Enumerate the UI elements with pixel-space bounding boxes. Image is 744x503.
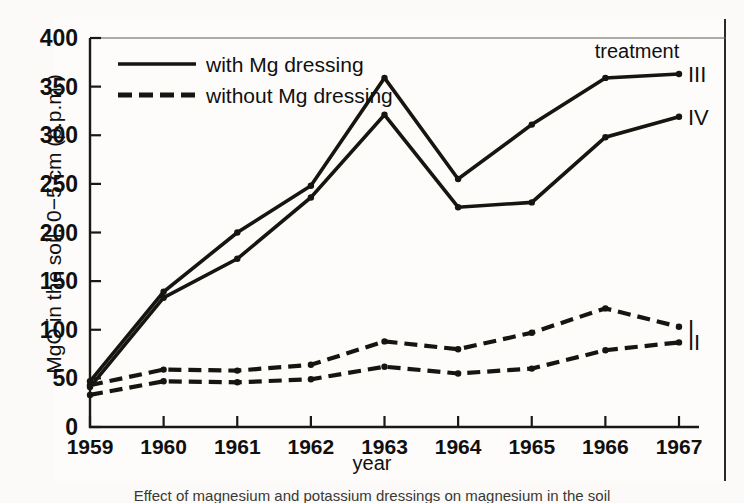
data-point [529, 330, 535, 336]
x-tick-label: 1960 [140, 435, 187, 458]
series-line-III [90, 74, 679, 381]
data-point [308, 183, 314, 189]
data-point [455, 346, 461, 352]
series-label-II: II [688, 330, 700, 355]
data-point [676, 114, 682, 120]
y-tick-label: 350 [40, 74, 78, 100]
y-tick-label: 100 [40, 317, 78, 343]
legend-label: with Mg dressing [205, 53, 364, 76]
data-point [529, 121, 535, 127]
data-point [234, 229, 240, 235]
x-tick-label: 1963 [361, 435, 408, 458]
data-point [455, 176, 461, 182]
figure-container: MgO in the soil, 0−5 cm (p.p.m.) year Ef… [0, 0, 744, 503]
y-tick-label: 400 [40, 25, 78, 51]
data-point [529, 365, 535, 371]
data-point [381, 75, 387, 81]
series-line-IV [90, 115, 679, 387]
line-chart-svg: 0501001502002503003504001959196019611962… [0, 0, 744, 503]
series-label-layer: IIIIVIIItreatment [595, 40, 709, 355]
series-label-III: III [688, 62, 706, 87]
data-point [602, 75, 608, 81]
x-tick-label: 1961 [214, 435, 261, 458]
data-point [234, 367, 240, 373]
x-tick-label: 1959 [67, 435, 114, 458]
data-point [308, 362, 314, 368]
data-point [381, 338, 387, 344]
data-point [381, 364, 387, 370]
series-label-IV: IV [688, 105, 709, 130]
series-layer [87, 71, 682, 398]
data-point [381, 112, 387, 118]
x-tick-label: 1965 [508, 435, 555, 458]
y-tick-label: 150 [40, 268, 78, 294]
data-point [308, 194, 314, 200]
data-point [529, 199, 535, 205]
legend-layer: with Mg dressingwithout Mg dressing [118, 53, 393, 107]
y-tick-label: 200 [40, 220, 78, 246]
data-point [602, 134, 608, 140]
treatment-annotation: treatment [595, 40, 680, 62]
data-point [160, 289, 166, 295]
x-tick-label: 1964 [435, 435, 482, 458]
data-point [602, 347, 608, 353]
data-point [160, 295, 166, 301]
data-point [676, 339, 682, 345]
y-tick-label: 250 [40, 171, 78, 197]
x-tick-label: 1966 [582, 435, 629, 458]
data-point [87, 382, 93, 388]
data-point [455, 370, 461, 376]
data-point [676, 324, 682, 330]
data-point [602, 305, 608, 311]
x-tick-label: 1962 [288, 435, 335, 458]
data-point [676, 71, 682, 77]
data-point [234, 379, 240, 385]
y-tick-label: 300 [40, 122, 78, 148]
legend-label: without Mg dressing [205, 84, 393, 107]
x-tick-label: 1967 [656, 435, 703, 458]
data-point [234, 256, 240, 262]
y-tick-label: 50 [52, 365, 78, 391]
data-point [308, 376, 314, 382]
data-point [87, 392, 93, 398]
data-point [160, 366, 166, 372]
series-line-I [90, 308, 679, 385]
data-point [455, 204, 461, 210]
data-point [160, 378, 166, 384]
